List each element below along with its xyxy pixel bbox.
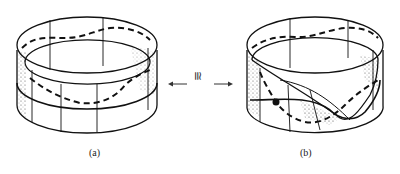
- arrow-left-icon: [168, 75, 188, 93]
- cylinder-band-drawing: [0, 0, 180, 140]
- panel-b-label: (b): [300, 147, 312, 158]
- panel-a-label: (a): [89, 147, 100, 158]
- panel-a-cylinder-band: [0, 0, 180, 140]
- homeomorphic-symbol: ≅: [192, 71, 204, 81]
- marked-point: [273, 99, 280, 106]
- twisted-band-drawing: [220, 0, 400, 140]
- panel-b-twisted-band: [220, 0, 400, 140]
